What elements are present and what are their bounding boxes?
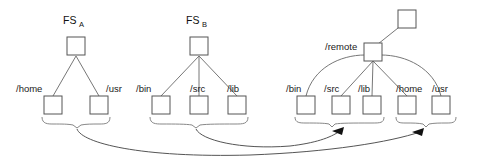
remote-top-node-box[interactable] bbox=[398, 10, 416, 28]
fs-b-box-lib[interactable] bbox=[228, 96, 246, 114]
fs-a-edge-home bbox=[53, 56, 76, 96]
mapping-arrows-group bbox=[77, 127, 424, 155]
fs-b-box-bin[interactable] bbox=[152, 96, 170, 114]
mapping-arrow-fsb-to-remote-bin-src-lib bbox=[196, 129, 340, 147]
fs-a-root-box[interactable] bbox=[67, 37, 85, 55]
fs-b-label-src: /src bbox=[190, 83, 206, 94]
remote-edge-lib bbox=[372, 61, 373, 96]
fs-b-title-subscript: B bbox=[202, 20, 207, 29]
fs-b-root-box[interactable] bbox=[190, 37, 208, 55]
fs-b-box-src[interactable] bbox=[190, 96, 208, 114]
remote-box-src[interactable] bbox=[332, 96, 350, 114]
remote-box-usr[interactable] bbox=[432, 96, 450, 114]
remote-group: /remote /bin /src /lib /home /usr bbox=[286, 10, 456, 127]
remote-label-home: /home bbox=[396, 83, 422, 94]
remote-brace-right bbox=[396, 117, 456, 127]
fs-a-label-usr: /usr bbox=[106, 83, 122, 94]
remote-label: /remote bbox=[325, 41, 357, 52]
remote-label-src: /src bbox=[324, 83, 340, 94]
arrow-head-fsa bbox=[412, 128, 424, 136]
fs-b-label-bin: /bin bbox=[136, 83, 151, 94]
fs-a-edge-usr bbox=[76, 56, 99, 96]
fs-b-title: FS bbox=[186, 14, 199, 26]
fs-a-label-home: /home bbox=[16, 83, 42, 94]
mapping-arrow-fsa-to-remote-home-usr bbox=[77, 129, 420, 155]
remote-label-bin: /bin bbox=[286, 83, 301, 94]
remote-label-lib: /lib bbox=[358, 83, 370, 94]
fs-a-brace bbox=[42, 117, 110, 128]
remote-label-usr: /usr bbox=[432, 83, 448, 94]
fs-a-box-home[interactable] bbox=[44, 96, 62, 114]
diagram-canvas: FS A /home /usr FS B /bin /sr bbox=[0, 0, 482, 163]
fs-a-group: FS A /home /usr bbox=[16, 14, 122, 128]
fs-b-group: FS B /bin /src /lib bbox=[136, 14, 248, 128]
fs-a-title: FS bbox=[63, 14, 76, 26]
remote-root-box[interactable] bbox=[364, 43, 382, 61]
remote-brace-left bbox=[295, 117, 384, 127]
remote-box-home[interactable] bbox=[398, 96, 416, 114]
remote-top-connector bbox=[378, 28, 398, 44]
fs-b-brace bbox=[150, 117, 248, 128]
arrow-head-fsb bbox=[332, 127, 344, 135]
remote-box-lib[interactable] bbox=[363, 96, 381, 114]
fs-a-box-usr[interactable] bbox=[90, 96, 108, 114]
fs-b-label-lib: /lib bbox=[227, 83, 239, 94]
fs-a-title-subscript: A bbox=[79, 20, 84, 29]
remote-box-bin[interactable] bbox=[297, 96, 315, 114]
filesystem-mapping-diagram: FS A /home /usr FS B /bin /sr bbox=[0, 0, 482, 163]
